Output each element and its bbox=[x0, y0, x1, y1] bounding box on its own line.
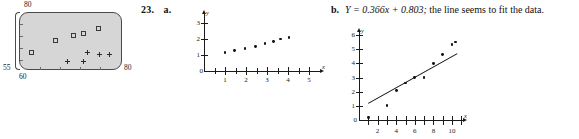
plot-23b: y x 0 1 2 3 4 5 6 246810 bbox=[345, 28, 470, 136]
plot-23b-y-tick bbox=[356, 92, 363, 93]
part-b-label: b. bbox=[331, 4, 339, 15]
plot-23b-y-tick bbox=[356, 49, 363, 50]
problem-number-label: 23. a. bbox=[141, 4, 171, 15]
plot-23a-point bbox=[233, 49, 236, 52]
part-b-rest: the line seems to fit the data. bbox=[427, 4, 544, 15]
plot-23a-x-minor-tick bbox=[299, 68, 300, 74]
plot-23a-y-tick-label: 1 bbox=[192, 52, 200, 59]
plot-23b-x-tick-label: 6 bbox=[410, 128, 420, 135]
calc-plus-point bbox=[81, 59, 86, 64]
plot-23a-point bbox=[224, 51, 227, 54]
plot-23a: y x 0 1 2 3 1 2 3 4 5 bbox=[190, 8, 330, 86]
calc-square-point bbox=[81, 31, 86, 36]
plot-23a-x-tick-label: 5 bbox=[304, 77, 314, 84]
plot-23a-origin-label: 0 bbox=[195, 68, 203, 75]
plot-23a-x-tick-label: 3 bbox=[262, 77, 272, 84]
plot-23b-point bbox=[454, 41, 457, 44]
plot-23b-x-tick bbox=[406, 116, 407, 125]
plot-23a-x-tick bbox=[309, 67, 310, 75]
plot-23b-point bbox=[432, 62, 435, 65]
plot-23a-y-tick bbox=[201, 39, 208, 40]
plot-23a-point bbox=[264, 42, 267, 45]
plot-23a-point bbox=[272, 40, 275, 43]
problem-number: 23. bbox=[141, 4, 154, 15]
plot-23b-x-tick-label: 10 bbox=[447, 128, 457, 135]
plot-23a-y-axis-label: y bbox=[206, 10, 209, 17]
plot-23a-x-tick bbox=[267, 67, 268, 75]
plot-23b-x-tick-label: 2 bbox=[373, 128, 383, 135]
plot-23b-x-axis bbox=[359, 120, 463, 121]
calc-square-point bbox=[96, 26, 101, 31]
plot-23a-point bbox=[244, 47, 247, 50]
plot-23a-point bbox=[279, 38, 282, 41]
plot-23a-point bbox=[254, 45, 257, 48]
plot-23a-x-axis bbox=[204, 71, 320, 72]
calc-ymin-label: 55 bbox=[3, 64, 11, 72]
calc-plus-point bbox=[85, 50, 90, 55]
plot-23a-x-minor-tick bbox=[257, 68, 258, 74]
plot-23a-x-minor-tick bbox=[278, 68, 279, 74]
plot-23b-y-tick-label: 1 bbox=[346, 103, 355, 110]
plot-23a-point bbox=[288, 36, 291, 39]
plot-23a-x-tick bbox=[288, 67, 289, 75]
plot-23b-x-tick bbox=[452, 116, 453, 125]
plot-23b-fit-line bbox=[368, 54, 458, 105]
plot-23b-y-tick-label: 4 bbox=[346, 60, 355, 67]
plot-23a-y-tick-label: 3 bbox=[192, 20, 200, 27]
plot-23b-y-tick-label: 6 bbox=[346, 32, 355, 39]
calc-square-point bbox=[71, 33, 76, 38]
plot-23b-y-tick-label: 2 bbox=[346, 89, 355, 96]
plot-23b-y-tick-label: 3 bbox=[346, 75, 355, 82]
plot-23b-x-tick bbox=[396, 116, 397, 125]
plot-23b-point bbox=[441, 53, 444, 56]
calc-square-point bbox=[29, 50, 34, 55]
plot-23b-y-tick bbox=[356, 106, 363, 107]
plot-23b-origin-label: 0 bbox=[349, 117, 357, 124]
plot-23a-x-minor-tick bbox=[236, 68, 237, 74]
plot-23b-x-tick bbox=[443, 116, 444, 125]
part-a-label: a. bbox=[164, 4, 172, 15]
graphing-calculator-plot: 80 55 60 80 bbox=[0, 0, 145, 100]
calc-x-tick bbox=[60, 67, 61, 70]
calc-xmax-label: 80 bbox=[124, 64, 132, 72]
plot-23b-y-tick bbox=[356, 35, 363, 36]
calc-x-tick bbox=[100, 67, 101, 70]
plot-23b-y-tick bbox=[356, 63, 363, 64]
calc-y-tick bbox=[20, 48, 23, 49]
plot-23b-x-tick bbox=[378, 116, 379, 125]
plot-23b-x-tick bbox=[387, 116, 388, 125]
plot-23b-x-tick bbox=[415, 116, 416, 125]
plot-23b-x-tick-label: 8 bbox=[428, 128, 438, 135]
calc-plus-point bbox=[65, 59, 70, 64]
calc-x-tick bbox=[40, 67, 41, 70]
calc-plus-point bbox=[97, 52, 102, 57]
plot-23a-y-tick bbox=[201, 23, 208, 24]
calc-plus-point bbox=[107, 52, 112, 57]
plot-23b-y-tick-label: 5 bbox=[346, 46, 355, 53]
plot-23a-x-tick-label: 2 bbox=[241, 77, 251, 84]
plot-23a-x-tick bbox=[246, 67, 247, 75]
calc-xmin-label: 60 bbox=[19, 73, 27, 81]
plot-23b-x-tick-label: 4 bbox=[391, 128, 401, 135]
plot-23b-point bbox=[367, 116, 370, 119]
plot-23b-y-tick bbox=[356, 78, 363, 79]
calc-y-tick bbox=[20, 36, 23, 37]
part-b-equation: Y = 0.366x + 0.803; bbox=[345, 4, 427, 15]
plot-23a-y-tick-label: 2 bbox=[192, 36, 200, 43]
calc-ymax-label: 80 bbox=[24, 1, 32, 9]
plot-23b-point bbox=[386, 104, 389, 107]
plot-23a-x-tick bbox=[225, 67, 226, 75]
plot-23b-x-tick bbox=[433, 116, 434, 125]
plot-23b-x-axis-label: x bbox=[464, 113, 467, 120]
plot-23b-x-tick bbox=[461, 116, 462, 125]
plot-23a-x-axis-label: x bbox=[322, 64, 325, 71]
calc-x-tick bbox=[80, 67, 81, 70]
plot-23a-x-tick-label: 1 bbox=[220, 77, 230, 84]
part-b-answer-text: Y = 0.366x + 0.803; the line seems to fi… bbox=[345, 4, 544, 15]
calculator-screen bbox=[19, 12, 122, 70]
calc-square-point bbox=[53, 38, 58, 43]
calc-y-tick bbox=[20, 24, 23, 25]
plot-23b-y-axis-label: y bbox=[361, 28, 364, 35]
plot-23b-point bbox=[451, 43, 454, 46]
calc-y-tick bbox=[20, 60, 23, 61]
